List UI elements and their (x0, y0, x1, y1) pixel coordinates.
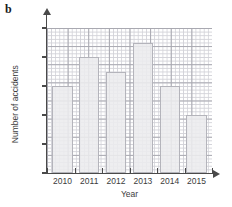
bar-2012 (106, 72, 126, 174)
bar-2010 (52, 86, 72, 173)
bar-slot (76, 28, 103, 173)
x-tick-label-2010: 2010 (49, 177, 76, 186)
x-tick-label-2014: 2014 (156, 177, 183, 186)
bar-2014 (160, 86, 180, 173)
x-tick-label-2013: 2013 (129, 177, 156, 186)
bar-slot (129, 28, 156, 173)
x-tick (47, 168, 48, 174)
x-tick (102, 168, 103, 174)
x-axis-arrowhead (213, 170, 220, 178)
bar-2011 (79, 57, 99, 173)
x-tick (212, 168, 213, 174)
y-axis-title: Number of accidents (11, 44, 20, 164)
x-axis-title: Year (47, 190, 212, 199)
y-tick (42, 85, 47, 86)
y-tick (42, 114, 47, 115)
plot-area (47, 28, 212, 173)
y-axis-arrowhead (43, 8, 51, 15)
y-tick (42, 27, 47, 28)
x-tick (185, 168, 186, 174)
x-tick-label-2012: 2012 (103, 177, 130, 186)
bar-slot (49, 28, 76, 173)
y-axis-line (46, 14, 47, 174)
bar-chart-figure: b 0246810 201020112012201320142015 Year … (0, 0, 232, 207)
x-tick (130, 168, 131, 174)
y-tick (42, 143, 47, 144)
bar-slot (156, 28, 183, 173)
x-tick (75, 168, 76, 174)
bar-slot (183, 28, 210, 173)
y-tick (42, 56, 47, 57)
part-label: b (5, 3, 12, 15)
x-tick-label-2011: 2011 (76, 177, 103, 186)
bar-series (47, 28, 212, 173)
bar-2015 (186, 115, 206, 173)
x-axis-tick-labels: 201020112012201320142015 (47, 177, 212, 186)
bar-2013 (133, 43, 153, 174)
x-tick-label-2015: 2015 (183, 177, 210, 186)
bar-slot (103, 28, 130, 173)
x-tick (157, 168, 158, 174)
